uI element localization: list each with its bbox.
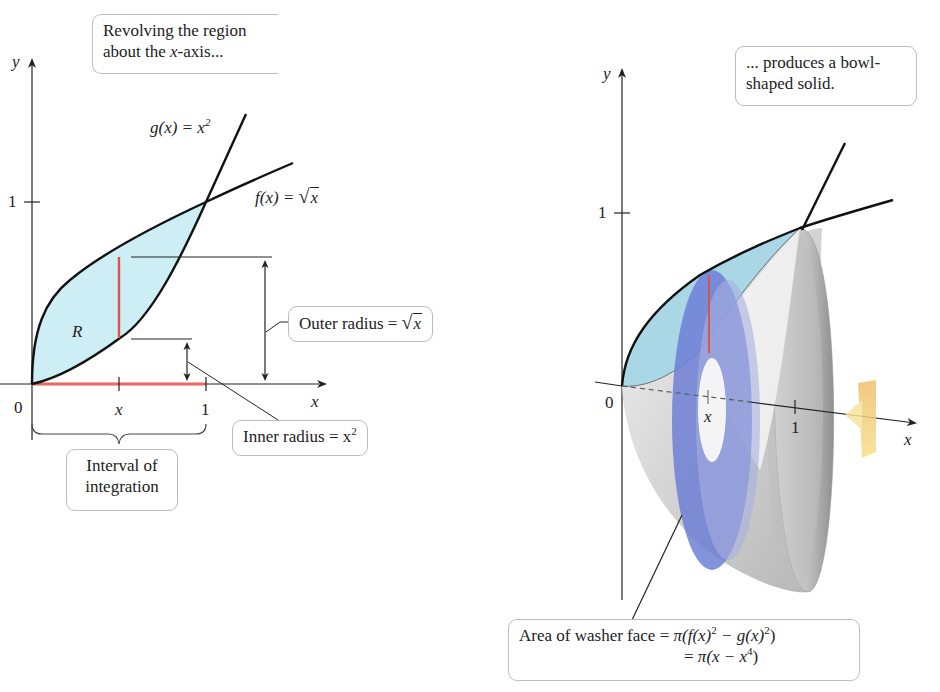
callout-inner-radius: Inner radius = x2 xyxy=(232,420,368,456)
g-label-text: g(x) = x xyxy=(150,118,205,137)
callout-outer-radius: Outer radius = √x xyxy=(288,306,433,342)
bowl-line1: ... produces a bowl- xyxy=(746,52,906,73)
outer-leader xyxy=(266,322,289,332)
washer-line2: = π(x − x4) xyxy=(519,646,849,667)
inner-radius-exp: 2 xyxy=(351,425,357,437)
rotation-arrow-icon xyxy=(845,380,876,458)
g-label-exp: 2 xyxy=(205,116,211,128)
y-axis-label: y xyxy=(12,52,20,72)
inner-radius-text: Inner radius = x xyxy=(243,427,351,446)
callout-revolving-var: x xyxy=(170,42,178,61)
region-label: R xyxy=(72,322,82,342)
interval-line1: Interval of xyxy=(77,455,167,476)
washer-hole xyxy=(698,358,726,462)
f-label-text: f(x) = xyxy=(255,188,299,207)
sqrt-symbol: √x xyxy=(299,185,320,208)
x-var-label: x xyxy=(115,400,123,420)
x-var-label-3d: x xyxy=(704,407,712,427)
outer-radius-text: Outer radius = xyxy=(299,314,402,333)
callout-revolving: Revolving the region about the x-axis... xyxy=(92,14,278,74)
x-axis-label: x xyxy=(311,392,319,412)
y-one-label: 1 xyxy=(8,192,17,212)
x-one-label-3d: 1 xyxy=(791,418,800,438)
callout-revolving-line1: Revolving the region xyxy=(103,20,268,41)
g-function-label: g(x) = x2 xyxy=(150,118,210,138)
f-function-label: f(x) = √x xyxy=(255,185,319,208)
interval-brace xyxy=(32,424,206,444)
bowl-line2: shaped solid. xyxy=(746,73,906,94)
callout-washer-area: Area of washer face = π(f(x)2 − g(x)2) =… xyxy=(508,619,860,681)
callout-bowl: ... produces a bowl- shaped solid. xyxy=(735,46,917,106)
washer-line1: Area of washer face = π(f(x)2 − g(x)2) xyxy=(519,625,849,646)
washer-leader xyxy=(632,515,682,620)
callout-interval: Interval of integration xyxy=(66,449,178,511)
x-one-label: 1 xyxy=(201,400,210,420)
origin-label: 0 xyxy=(14,398,23,418)
x-axis-3d-left xyxy=(595,382,622,386)
interval-line2: integration xyxy=(77,476,167,497)
right-diagram xyxy=(595,70,915,620)
callout-revolving-line2-post: -axis... xyxy=(178,42,224,61)
x-axis-label-3d: x xyxy=(904,430,912,450)
callout-revolving-line2-pre: about the xyxy=(103,42,170,61)
origin-label-3d: 0 xyxy=(605,393,614,413)
y-one-label-3d: 1 xyxy=(598,203,607,223)
y-axis-label-3d: y xyxy=(603,64,611,84)
